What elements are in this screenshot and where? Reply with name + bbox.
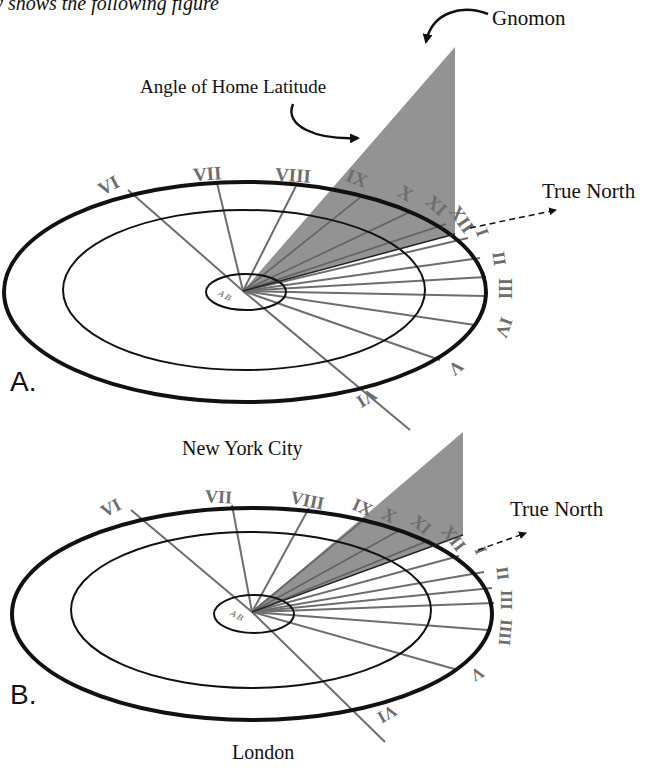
true-north-arrow	[470, 210, 556, 228]
numeral: VIII	[274, 163, 311, 186]
numeral: VI	[94, 171, 123, 199]
panel-a-city: New York City	[182, 437, 303, 460]
numeral: III	[495, 278, 515, 299]
ab-marker: A B	[216, 287, 234, 303]
gnomon-label: Gnomon	[492, 6, 566, 30]
latitude-pointer-arrow	[291, 104, 358, 138]
sundial-figure: y shows the following figure	[0, 0, 657, 768]
numeral: II	[488, 250, 510, 267]
numeral: IV	[491, 315, 517, 341]
true-north-label: True North	[510, 497, 604, 521]
panel-a-new-york: A B VI VII VIII IX X XI XII I II III IV …	[4, 6, 636, 460]
numeral: V	[444, 356, 467, 380]
numeral: II	[492, 566, 513, 582]
panel-a-letter: A.	[10, 366, 36, 397]
numeral: VII	[204, 486, 232, 507]
panel-b-london: A B VI VII VIII IX X XI XII I II III III…	[10, 432, 604, 763]
numeral: VII	[192, 162, 222, 185]
angle-of-home-latitude-label: Angle of Home Latitude	[140, 76, 326, 97]
ab-marker: A B	[228, 607, 246, 623]
top-caption-fragment: y shows the following figure	[0, 0, 219, 15]
panel-b-city: London	[232, 741, 294, 763]
gnomon-pointer-arrow	[426, 10, 488, 42]
numeral: V	[467, 663, 488, 686]
true-north-label: True North	[542, 179, 636, 203]
numeral: III	[497, 590, 516, 610]
numeral: VI	[97, 494, 124, 521]
numeral: IIII	[495, 618, 516, 646]
panel-b-letter: B.	[10, 679, 36, 710]
numeral: I	[472, 226, 493, 239]
